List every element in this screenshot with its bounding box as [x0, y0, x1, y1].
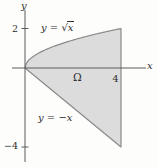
- x-axis-label: x: [147, 61, 153, 71]
- radical-sign: √: [61, 22, 66, 33]
- lower-curve-equation: y = −x: [38, 113, 72, 123]
- y-axis-label: y: [21, 1, 27, 11]
- upper-curve-equation: y = √x: [41, 23, 74, 33]
- upper-equation-prefix: y =: [41, 22, 61, 33]
- radicand: x: [67, 21, 75, 33]
- plot-canvas: [0, 0, 157, 168]
- x-tick-label-4: 4: [111, 74, 120, 84]
- figure-region-omega: y x 2 −4 4 y = √x Ω y = −x: [0, 0, 157, 168]
- region-omega-shape: [25, 29, 121, 148]
- y-tick-label-neg4: −4: [1, 141, 18, 151]
- region-omega-label: Ω: [73, 72, 82, 83]
- y-tick-label-2: 2: [6, 24, 18, 34]
